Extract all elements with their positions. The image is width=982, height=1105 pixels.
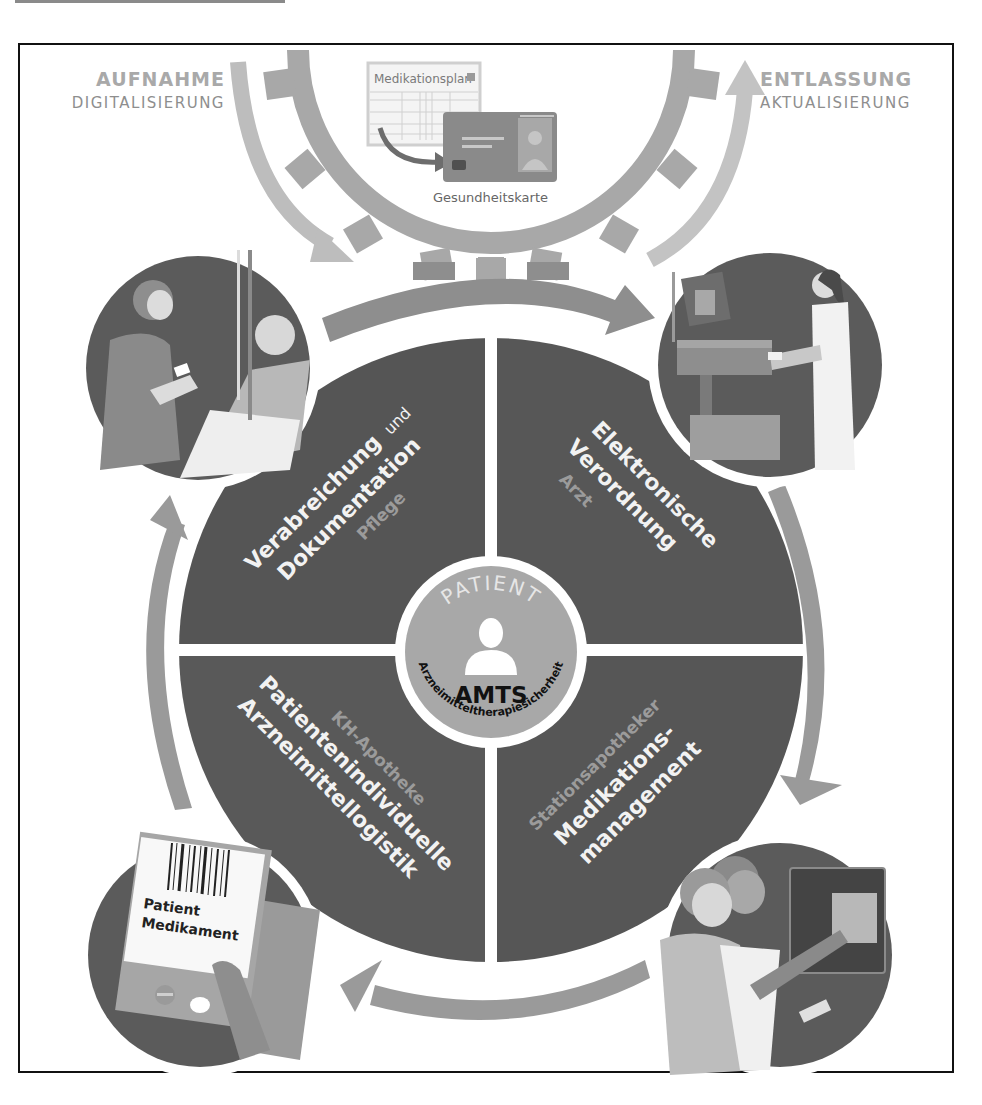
health-card-label: Gesundheitskarte <box>433 190 548 205</box>
health-card: Gesundheitskarte <box>433 112 557 205</box>
cycle-arrow-bottom <box>340 960 650 1020</box>
amts-cycle-diagram: Medikationsplan Gesundheitskarte <box>0 0 982 1105</box>
card-chip-icon <box>452 160 466 170</box>
barcode-logistics-illustration: Patient Medikament <box>78 832 322 1077</box>
cycle-arrow-left <box>146 495 192 810</box>
nurse-administration-illustration <box>76 246 320 490</box>
medication-management-illustration <box>658 833 902 1077</box>
card-photo-icon <box>528 131 542 145</box>
doc-corner-icon <box>467 73 475 81</box>
patient-center: PATIENT AMTS Arzneimitteltherapiesicherh… <box>395 556 587 748</box>
capsule-icon <box>190 997 210 1013</box>
medication-plan-title: Medikationsplan <box>374 72 472 86</box>
doctor-prescription-illustration <box>648 243 892 487</box>
